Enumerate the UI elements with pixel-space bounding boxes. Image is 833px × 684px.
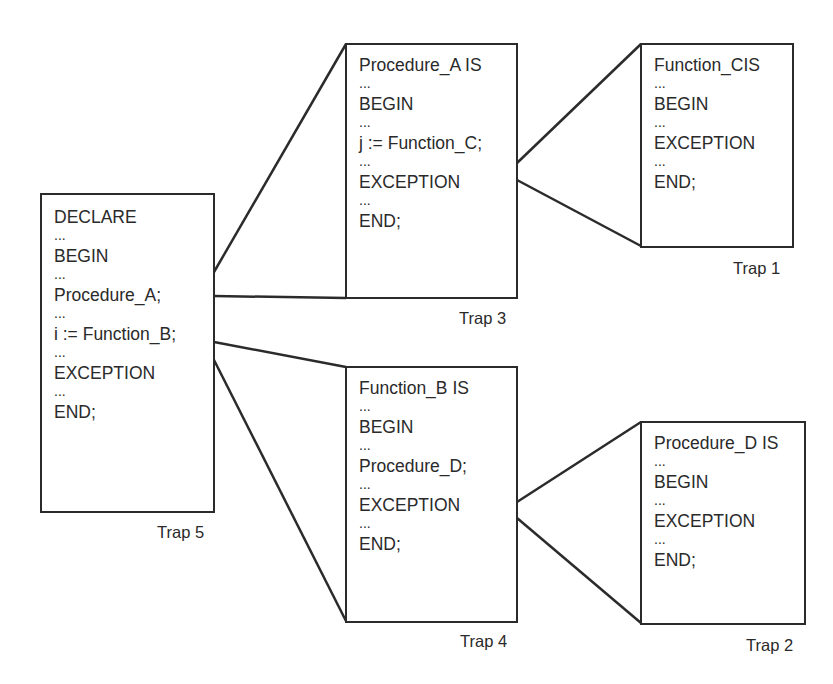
code-line: ... xyxy=(54,385,176,400)
code-line: Procedure_D; xyxy=(359,454,469,478)
code-line: ... xyxy=(54,229,176,244)
code-line: ... xyxy=(654,116,760,131)
code-line: EXCEPTION xyxy=(359,493,469,517)
code-line: ... xyxy=(654,155,760,170)
code-line: ... xyxy=(359,478,469,493)
code-line: DECLARE xyxy=(54,205,176,229)
code-line: Procedure_A; xyxy=(54,283,176,307)
code-line: END; xyxy=(654,170,760,194)
code-line: END; xyxy=(359,532,469,556)
code-lines: DECLARE ... BEGIN ... Procedure_A; ... i… xyxy=(54,205,176,424)
code-lines: Function_CIS ... BEGIN ... EXCEPTION ...… xyxy=(654,53,760,194)
trap-label: Trap 3 xyxy=(459,309,506,328)
code-line: EXCEPTION xyxy=(654,509,779,533)
edge-trap3-trap1-bottom xyxy=(517,180,641,246)
code-line: ... xyxy=(54,346,176,361)
trap-label: Trap 5 xyxy=(157,523,204,542)
code-line: ... xyxy=(654,455,779,470)
edge-trap5-trap3-bottom xyxy=(214,296,346,298)
code-line: ... xyxy=(359,77,482,92)
code-line: EXCEPTION xyxy=(654,131,760,155)
code-line: BEGIN xyxy=(654,470,779,494)
block-trap5: DECLARE ... BEGIN ... Procedure_A; ... i… xyxy=(40,193,215,513)
edge-trap5-trap4-top xyxy=(214,342,346,367)
code-line: ... xyxy=(654,494,779,509)
code-line: ... xyxy=(359,439,469,454)
code-line: Procedure_A IS xyxy=(359,53,482,77)
code-line: ... xyxy=(359,116,482,131)
code-line: ... xyxy=(54,307,176,322)
block-trap3: Procedure_A IS ... BEGIN ... j := Functi… xyxy=(345,43,518,299)
edge-trap5-trap3-top xyxy=(214,44,346,272)
code-line: ... xyxy=(359,194,482,209)
code-line: ... xyxy=(654,533,779,548)
code-line: END; xyxy=(359,209,482,233)
edge-trap4-trap2-top xyxy=(517,422,641,502)
trap-label: Trap 2 xyxy=(746,636,793,655)
code-line: ... xyxy=(359,400,469,415)
trap-label: Trap 4 xyxy=(460,632,507,651)
trap-label: Trap 1 xyxy=(733,259,780,278)
code-line: END; xyxy=(654,548,779,572)
code-lines: Function_B IS ... BEGIN ... Procedure_D;… xyxy=(359,376,469,556)
code-line: Function_B IS xyxy=(359,376,469,400)
code-line: EXCEPTION xyxy=(359,170,482,194)
code-line: Procedure_D IS xyxy=(654,431,779,455)
code-line: BEGIN xyxy=(359,415,469,439)
edge-trap4-trap2-bottom xyxy=(517,518,641,623)
code-line: BEGIN xyxy=(359,92,482,116)
block-trap2: Procedure_D IS ... BEGIN ... EXCEPTION .… xyxy=(640,421,806,625)
code-line: ... xyxy=(359,155,482,170)
code-line: j := Function_C; xyxy=(359,131,482,155)
code-line: EXCEPTION xyxy=(54,361,176,385)
code-line: ... xyxy=(654,77,760,92)
code-line: Function_CIS xyxy=(654,53,760,77)
code-line: i := Function_B; xyxy=(54,322,176,346)
code-line: ... xyxy=(54,268,176,283)
code-lines: Procedure_A IS ... BEGIN ... j := Functi… xyxy=(359,53,482,233)
edge-trap5-trap4-bottom xyxy=(214,360,346,621)
code-line: BEGIN xyxy=(54,244,176,268)
code-line: ... xyxy=(359,517,469,532)
block-trap1: Function_CIS ... BEGIN ... EXCEPTION ...… xyxy=(640,43,794,248)
code-line: END; xyxy=(54,400,176,424)
edge-trap3-trap1-top xyxy=(517,44,641,163)
code-line: BEGIN xyxy=(654,92,760,116)
block-trap4: Function_B IS ... BEGIN ... Procedure_D;… xyxy=(345,366,518,623)
code-lines: Procedure_D IS ... BEGIN ... EXCEPTION .… xyxy=(654,431,779,572)
